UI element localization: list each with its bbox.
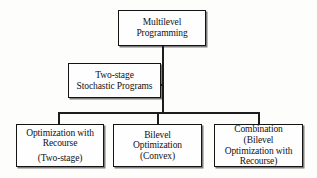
node-bilevel-optimization-line3: (Convex) [140,151,175,162]
node-bilevel-optimization-line1: Bilevel [144,130,171,141]
node-combination-line4: Recourse) [240,156,278,167]
node-bilevel-optimization[interactable]: Bilevel Optimization (Convex) [113,124,202,167]
node-two-stage-stochastic-programs-line1: Two-stage [95,70,134,81]
node-bilevel-optimization-line2: Optimization [133,140,182,151]
node-optimization-with-recourse-line2: Recourse [43,138,78,149]
connector-distribution-bar [58,112,260,114]
node-multilevel-programming-line1: Multilevel [143,17,182,28]
node-combination[interactable]: Combination (Bilevel Optimization with R… [214,124,303,167]
node-multilevel-programming-line2: Programming [136,28,187,39]
diagram-canvas: Multilevel Programming Two-stage Stochas… [0,0,317,178]
connector-trunk-vertical [162,46,164,113]
node-combination-line2: (Bilevel [244,135,274,146]
node-multilevel-programming[interactable]: Multilevel Programming [118,10,206,46]
node-optimization-with-recourse-line3: (Two-stage) [38,153,83,164]
node-optimization-with-recourse[interactable]: Optimization with Recourse (Two-stage) [16,124,104,167]
node-two-stage-stochastic-programs[interactable]: Two-stage Stochastic Programs [68,63,161,98]
node-combination-line3: Optimization with [225,146,293,157]
node-combination-line1: Combination [234,124,283,135]
node-optimization-with-recourse-line1: Optimization with [26,128,94,139]
node-two-stage-stochastic-programs-line2: Stochastic Programs [77,81,153,92]
